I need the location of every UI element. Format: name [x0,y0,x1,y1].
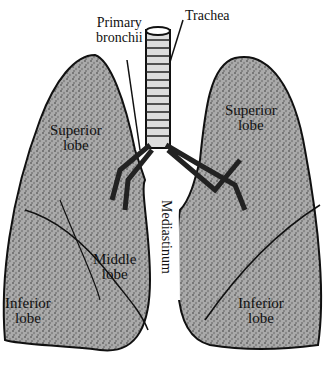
right-inferior-lobe-label: Inferior lobe [238,296,284,326]
mediastinum-label: Mediastinum [158,200,174,274]
lung-diagram: Primary bronchii Trachea Superior lobe S… [0,0,335,370]
left-inferior-lobe-label: Inferior lobe [5,296,51,326]
left-superior-lobe-label: Superior lobe [50,123,102,153]
primary-bronchii-label: Primary bronchii [96,15,143,45]
middle-lobe-label: Middle lobe [93,252,136,282]
trachea-label: Trachea [185,8,230,23]
right-superior-lobe-label: Superior lobe [225,103,277,133]
